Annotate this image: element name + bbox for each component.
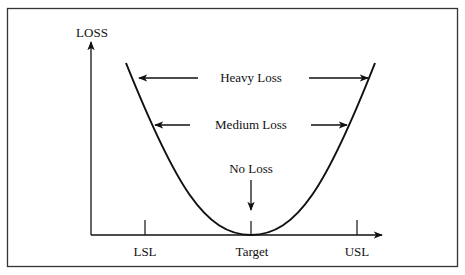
tick-label-lsl: LSL [133,244,156,259]
heavy-loss-label: Heavy Loss [220,70,282,85]
outer-frame [8,9,458,267]
y-axis-label: LOSS [76,25,108,40]
loss-function-diagram: LOSS LSL Target USL Heavy Loss Medium Lo… [0,0,465,275]
medium-loss-label: Medium Loss [215,117,287,132]
tick-label-target: Target [236,244,269,259]
tick-label-usl: USL [345,244,370,259]
no-loss-label: No Loss [229,161,273,176]
